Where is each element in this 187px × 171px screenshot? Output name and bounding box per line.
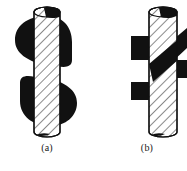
figure-a-drawing xyxy=(0,4,94,140)
figure-container: (a) xyxy=(0,0,187,171)
figure-b-caption: (b) xyxy=(93,142,187,154)
figure-b-drawing xyxy=(93,4,187,140)
hatched-cylinder-a xyxy=(34,7,60,137)
figure-panel-a: (a) xyxy=(0,0,94,171)
figure-a-caption: (a) xyxy=(0,142,94,154)
figure-panel-b: (b) xyxy=(93,0,187,171)
